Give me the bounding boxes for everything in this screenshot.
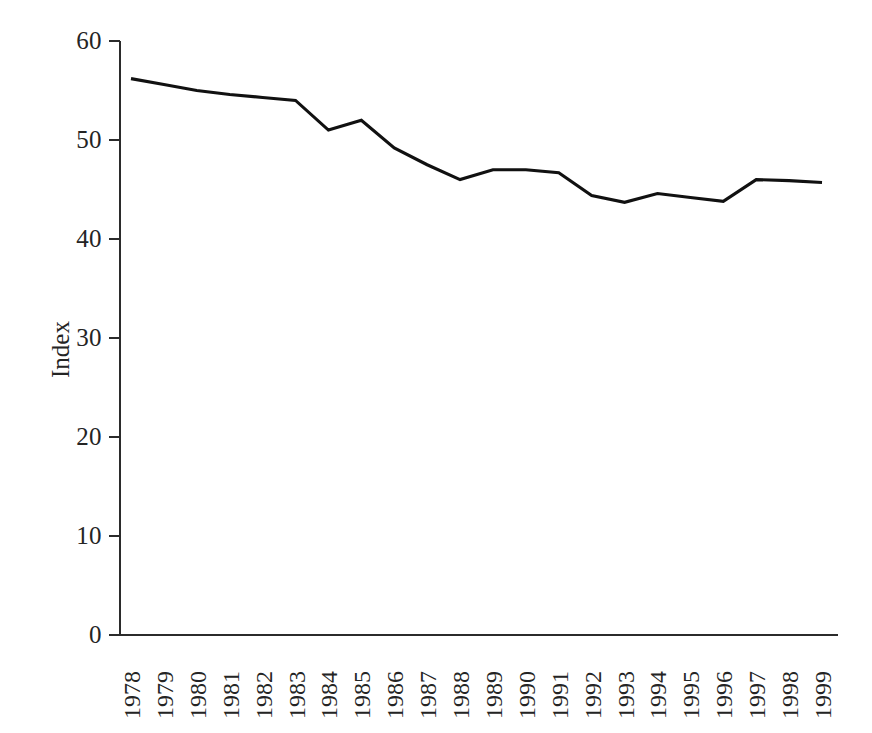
x-tick-label: 1999 <box>811 671 835 719</box>
x-tick-label: 1984 <box>317 671 341 719</box>
index-series-line <box>131 79 822 203</box>
x-tick-label: 1988 <box>449 671 473 719</box>
x-tick-label: 1979 <box>153 671 177 719</box>
x-tick-label: 1985 <box>350 671 374 719</box>
y-tick-label: 40 <box>76 226 102 251</box>
x-tick-label: 1994 <box>646 671 670 719</box>
x-tick-label: 1997 <box>745 671 769 719</box>
x-tick-label: 1991 <box>548 671 572 719</box>
line-chart: 0102030405060 19781979198019811982198319… <box>0 0 872 733</box>
y-axis-title: Index <box>48 321 73 378</box>
x-tick-label: 1982 <box>252 671 276 719</box>
x-tick-label: 1980 <box>186 671 210 719</box>
x-tick-label: 1983 <box>285 671 309 719</box>
x-tick-label: 1981 <box>219 671 243 719</box>
x-tick-label: 1986 <box>383 671 407 719</box>
y-tick-label: 20 <box>76 424 102 449</box>
y-tick-label: 50 <box>76 127 102 152</box>
y-tick-label: 60 <box>76 28 102 53</box>
x-tick-label: 1996 <box>712 671 736 719</box>
x-tick-label: 1987 <box>416 671 440 719</box>
y-tick-label: 30 <box>76 325 102 350</box>
x-tick-label: 1995 <box>679 671 703 719</box>
y-axis-tick-marks <box>109 41 120 635</box>
x-tick-label: 1989 <box>482 671 506 719</box>
y-tick-label: 0 <box>89 622 102 647</box>
y-tick-label: 10 <box>76 523 102 548</box>
x-tick-label: 1992 <box>581 671 605 719</box>
x-tick-label: 1990 <box>515 671 539 719</box>
x-tick-label: 1993 <box>614 671 638 719</box>
chart-plot-area <box>0 0 872 733</box>
x-tick-label: 1978 <box>120 671 144 719</box>
x-tick-label: 1998 <box>778 671 802 719</box>
